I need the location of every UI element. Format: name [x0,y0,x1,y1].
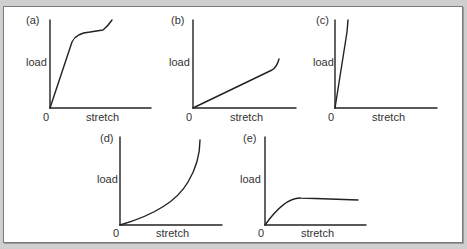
panel-e-origin: 0 [258,227,264,239]
panel-e-xlabel: stretch [301,227,334,239]
load-stretch-diagram: (a) load 0 stretch (b) load 0 stretch (c… [0,0,467,249]
panel-c [335,20,437,108]
panel-b-xlabel: stretch [230,111,263,123]
panel-b-curve [193,59,279,108]
panel-a-origin: 0 [43,111,49,123]
panel-a-curve [50,20,112,108]
panel-b [193,20,296,108]
panel-c-tag: (c) [316,14,329,26]
panel-c-ylabel: load [313,56,334,68]
panel-a-tag: (a) [26,14,39,26]
panel-c-xlabel: stretch [372,111,405,123]
panel-a-xlabel: stretch [86,111,119,123]
panel-e [265,137,366,225]
panel-b-ylabel: load [169,56,190,68]
panel-a-ylabel: load [26,56,47,68]
panel-d-tag: (d) [100,132,113,144]
panel-d-ylabel: load [97,173,118,185]
panel-e-tag: (e) [243,132,256,144]
panel-a [50,20,151,108]
panel-c-curve [335,20,348,108]
panel-e-ylabel: load [240,173,261,185]
panel-c-origin: 0 [328,111,334,123]
panel-d [120,137,222,225]
panel-b-tag: (b) [171,14,184,26]
panel-d-xlabel: stretch [156,227,189,239]
panel-d-origin: 0 [113,227,119,239]
panel-b-origin: 0 [186,111,192,123]
panel-e-curve [265,198,358,225]
panel-d-curve [120,140,200,225]
